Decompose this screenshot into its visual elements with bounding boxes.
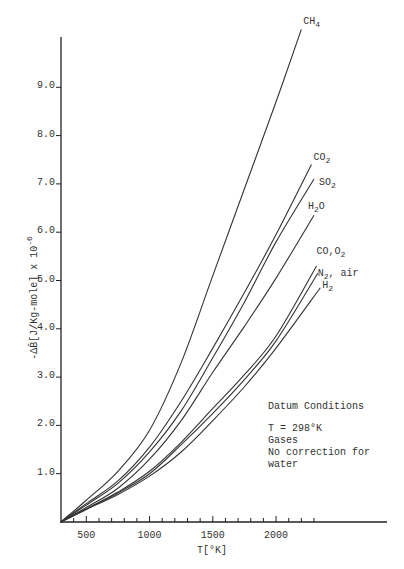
curve-label-co2: CO2 [313, 152, 330, 165]
note-line-gases: Gases [268, 435, 298, 446]
x-tick-label: 500 [77, 530, 95, 541]
curve-co-o2 [61, 266, 317, 522]
curve-label-ch4: CH4 [303, 16, 320, 29]
curve-label-h2o: H2O [308, 201, 325, 214]
note-line-correction: No correction for [268, 447, 370, 458]
y-tick-label: 3.0 [37, 370, 55, 381]
y-tick-label: 1.0 [37, 467, 55, 478]
note-line-water: water [268, 459, 298, 470]
y-tick-label: 2.0 [37, 418, 55, 429]
x-tick-label: 2000 [264, 530, 288, 541]
y-axis-title: -ΔB̄[J/Kg-mole] x 10-6 [25, 236, 40, 360]
curve-h2o [61, 215, 314, 522]
curve-label-so2: SO2 [319, 177, 336, 190]
curve-ch4 [61, 29, 302, 522]
curve-label-co-o2: CO,O2 [317, 246, 346, 259]
y-ticks: 1.02.03.04.05.06.07.08.09.0 [37, 80, 61, 477]
curve-so2 [61, 179, 314, 522]
x-axis-title: T[°K] [197, 545, 227, 556]
curve-label-h2: H2 [322, 280, 333, 293]
svg-text:-ΔB̄[J/Kg-mole] x 10-6: -ΔB̄[J/Kg-mole] x 10-6 [25, 236, 40, 360]
x-ticks: 500100015002000 [74, 516, 314, 541]
note-line-temperature: T = 298°K [268, 423, 322, 434]
curve-labels: CH4CO2SO2H2OCO,O2N2, airH2 [303, 16, 358, 292]
y-tick-label: 8.0 [37, 129, 55, 140]
x-tick-label: 1500 [201, 530, 225, 541]
chart: 500100015002000 1.02.03.04.05.06.07.08.0… [0, 0, 404, 569]
y-axis-title-main: -ΔB̄[J/Kg-mole] x 10 [28, 246, 40, 360]
datum-conditions-note: Datum Conditions T = 298°K Gases No corr… [268, 401, 370, 470]
y-tick-label: 9.0 [37, 80, 55, 91]
note-heading: Datum Conditions [268, 401, 364, 412]
x-tick-label: 1000 [138, 530, 162, 541]
y-tick-label: 6.0 [37, 225, 55, 236]
y-tick-label: 7.0 [37, 177, 55, 188]
y-axis-title-exponent: -6 [25, 236, 34, 246]
